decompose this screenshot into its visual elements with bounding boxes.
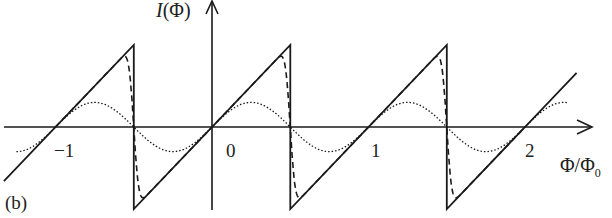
x-tick-label: 0 <box>226 141 236 160</box>
x-tick-label: 1 <box>371 141 381 160</box>
x-tick-label: 2 <box>525 141 535 160</box>
x-tick-label: −1 <box>54 141 74 160</box>
x-axis-label: Φ/Φ0 <box>560 155 601 179</box>
panel-label: (b) <box>5 193 27 212</box>
y-axis-label: I(Φ) <box>156 0 191 20</box>
plot-area <box>0 0 612 218</box>
